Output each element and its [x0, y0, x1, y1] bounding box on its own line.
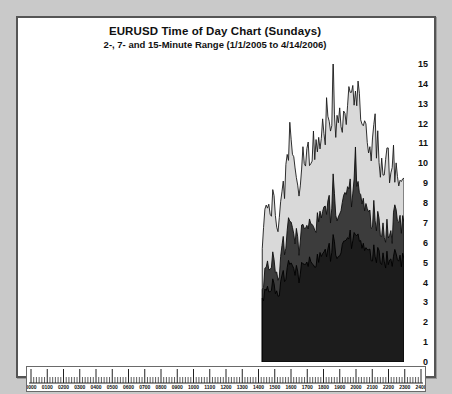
x-axis-tick-label: 1300	[237, 384, 248, 390]
x-axis-tick-label: 1200	[220, 384, 231, 390]
x-axis-tick-label: 1600	[285, 384, 296, 390]
y-axis-tick-label: 7	[406, 218, 428, 227]
area-chart-svg	[26, 64, 404, 362]
y-axis-tick-label: 6	[406, 238, 428, 247]
y-axis-tick-label: 11	[406, 139, 428, 148]
page-title: EURUSD Time of Day Chart (Sundays)	[18, 24, 412, 38]
chart-subtitle: 2-, 7- and 15-Minute Range (1/1/2005 to …	[18, 38, 412, 51]
x-axis-tick-label: 0700	[139, 384, 150, 390]
y-axis-tick-label: 10	[406, 159, 428, 168]
y-axis-tick-label: 8	[406, 199, 428, 208]
x-axis-tick-label: 0000	[26, 384, 37, 390]
x-axis-tick-label: 0900	[172, 384, 183, 390]
x-axis-tick-label: 0400	[90, 384, 101, 390]
x-axis-tick-label: 0800	[155, 384, 166, 390]
y-axis-tick-label: 13	[406, 99, 428, 108]
x-axis-tick-label: 2000	[350, 384, 361, 390]
y-axis-tick-label: 5	[406, 258, 428, 267]
x-axis-tick-label: 1100	[204, 384, 215, 390]
title-block: EURUSD Time of Day Chart (Sundays) 2-, 7…	[18, 24, 412, 51]
x-axis-tick-label: 2400	[415, 384, 426, 390]
x-axis-tick-label: 1700	[302, 384, 313, 390]
x-axis-tick-label: 1800	[318, 384, 329, 390]
x-axis-tick-label: 2300	[399, 384, 410, 390]
x-axis-tick-label: 0500	[107, 384, 118, 390]
x-axis-labels: 0000010002000300040005000600070008000900…	[27, 384, 426, 392]
y-axis-tick-label: 15	[406, 60, 428, 69]
chart-frame: EURUSD Time of Day Chart (Sundays) 2-, 7…	[16, 16, 436, 378]
x-axis-tick-label: 1500	[269, 384, 280, 390]
x-axis: 0000010002000300040005000600070008000900…	[26, 366, 426, 392]
y-axis: 0123456789101112131415	[406, 64, 436, 364]
x-axis-tick-label: 0100	[42, 384, 53, 390]
y-axis-tick-label: 12	[406, 119, 428, 128]
x-axis-tick-label: 2100	[367, 384, 378, 390]
y-axis-tick-label: 3	[406, 298, 428, 307]
series-layer	[262, 64, 404, 362]
y-axis-tick-label: 14	[406, 79, 428, 88]
y-axis-tick-label: 2	[406, 318, 428, 327]
x-axis-tick-label: 1000	[188, 384, 199, 390]
x-axis-tick-label: 0300	[74, 384, 85, 390]
x-axis-tick-label: 1400	[253, 384, 264, 390]
x-axis-tick-label: 0200	[58, 384, 69, 390]
x-axis-tick-label: 0600	[123, 384, 134, 390]
y-axis-tick-label: 1	[406, 338, 428, 347]
x-axis-tick-label: 2200	[383, 384, 394, 390]
chart-page: EURUSD Time of Day Chart (Sundays) 2-, 7…	[0, 0, 452, 394]
y-axis-tick-label: 4	[406, 278, 428, 287]
y-axis-tick-label: 9	[406, 179, 428, 188]
x-axis-tick-label: 1900	[334, 384, 345, 390]
plot-area	[26, 64, 404, 362]
